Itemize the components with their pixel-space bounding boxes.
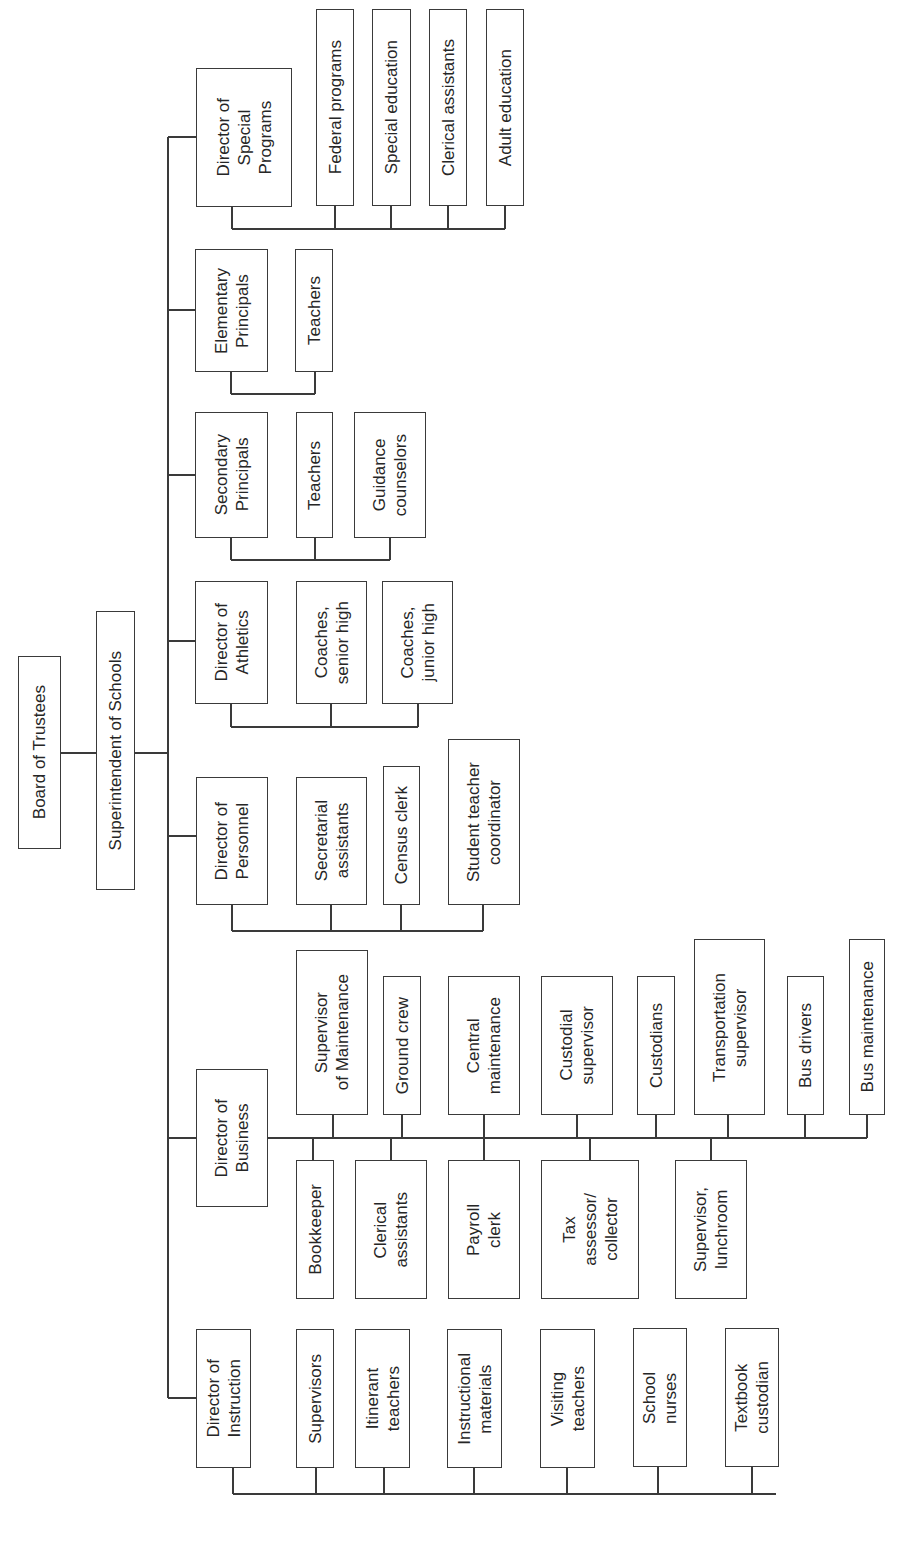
org-node-label: Elementary Principals [211,268,253,354]
org-node-label: Custodians [646,1003,667,1088]
org-node-itinerant-teachers: Itinerant teachers [355,1329,410,1468]
org-node-label: Secretarial assistants [311,800,353,881]
org-node-supervisor-maintenance: Supervisor of Maintenance [296,950,368,1115]
org-node-dir-business: Director of Business [196,1069,268,1207]
org-node-label: Supervisors [305,1354,326,1444]
org-node-label: Teachers [304,276,325,345]
org-node-label: Guidance counselors [369,434,411,516]
org-node-label: Coaches, junior high [397,603,439,681]
org-node-central-maintenance: Central maintenance [448,976,520,1115]
org-node-visiting-teachers: Visiting teachers [540,1329,595,1468]
org-node-federal-programs: Federal programs [316,9,354,206]
org-node-label: Census clerk [391,786,412,884]
org-node-label: Teachers [304,441,325,510]
org-node-label: Bookkeeper [305,1184,326,1275]
org-node-elementary-principals: Elementary Principals [195,249,268,372]
org-node-coaches-senior: Coaches, senior high [296,581,367,704]
org-node-label: Ground crew [392,997,413,1094]
org-node-secretarial-assistants: Secretarial assistants [296,777,367,905]
org-node-instructional-materials: Instructional materials [447,1329,502,1468]
org-node-label: Adult education [495,49,516,166]
org-node-tax-assessor: Tax assessor/ collector [541,1160,639,1299]
org-node-label: Clerical assistants [370,1192,412,1268]
org-node-dir-instruction: Director of Instruction [196,1329,251,1468]
org-node-label: Bus maintenance [857,961,878,1092]
org-node-label: Itinerant teachers [362,1366,404,1431]
org-node-label: Textbook custodian [731,1361,773,1434]
org-node-label: Supervisor of Maintenance [311,974,353,1090]
org-node-ground-crew: Ground crew [383,976,421,1115]
org-node-label: Clerical assistants [438,39,459,176]
org-chart: Board of TrusteesSuperintendent of Schoo… [0,0,904,1555]
org-node-label: Coaches, senior high [311,601,353,684]
org-node-label: Tax assessor/ collector [559,1193,622,1266]
org-node-census-clerk: Census clerk [383,766,420,905]
org-node-dir-personnel: Director of Personnel [196,777,268,905]
org-node-supervisor-lunchroom: Supervisor, lunchroom [675,1160,747,1299]
org-node-guidance-counselors: Guidance counselors [354,412,426,538]
org-node-label: Director of Personnel [211,802,253,880]
org-node-bus-drivers: Bus drivers [787,976,824,1115]
org-node-label: Central maintenance [463,997,505,1094]
org-node-custodians: Custodians [637,976,675,1115]
org-node-teachers-elem: Teachers [295,249,333,372]
org-node-bus-maintenance: Bus maintenance [849,939,885,1115]
org-node-label: Instructional materials [454,1353,496,1445]
org-node-label: Payroll clerk [463,1204,505,1256]
org-node-label: Director of Special Programs [213,98,276,176]
org-node-bookkeeper: Bookkeeper [296,1160,334,1299]
org-node-clerical-assistants-bus: Clerical assistants [355,1160,427,1299]
org-node-student-teacher-coordinator: Student teacher coordinator [448,739,520,905]
org-node-label: Secondary Principals [211,434,253,515]
org-node-label: Board of Trustees [29,685,50,819]
org-node-textbook-custodian: Textbook custodian [725,1328,779,1467]
org-node-label: Student teacher coordinator [463,762,505,882]
org-node-board: Board of Trustees [18,656,61,849]
org-node-adult-education: Adult education [486,9,524,206]
org-node-teachers-sec: Teachers [296,412,333,538]
org-node-label: Director of Athletics [211,603,253,681]
org-node-label: School nurses [639,1372,681,1424]
org-node-label: Special education [381,40,402,174]
org-node-label: Custodial supervisor [556,1006,598,1084]
org-node-payroll-clerk: Payroll clerk [448,1160,520,1299]
org-node-label: Director of Business [211,1099,253,1177]
org-node-label: Transportation supervisor [709,973,751,1082]
org-node-clerical-assistants-sp: Clerical assistants [429,9,467,206]
org-node-supervisors: Supervisors [296,1329,334,1468]
org-node-special-education: Special education [372,9,411,206]
org-node-label: Visiting teachers [547,1366,589,1431]
org-node-label: Bus drivers [795,1003,816,1088]
org-node-label: Supervisor, lunchroom [690,1187,732,1272]
org-node-label: Federal programs [325,40,346,174]
org-node-custodial-supervisor: Custodial supervisor [541,976,613,1115]
org-node-dir-athletics: Director of Athletics [195,581,268,704]
org-node-label: Superintendent of Schools [105,651,126,850]
org-node-coaches-junior: Coaches, junior high [382,581,453,704]
org-node-dir-special-programs: Director of Special Programs [196,68,292,207]
org-node-superintendent: Superintendent of Schools [96,611,135,890]
org-node-label: Director of Instruction [203,1359,245,1437]
org-node-transportation-supervisor: Transportation supervisor [694,939,765,1115]
org-node-school-nurses: School nurses [633,1328,687,1467]
org-node-secondary-principals: Secondary Principals [195,412,268,538]
